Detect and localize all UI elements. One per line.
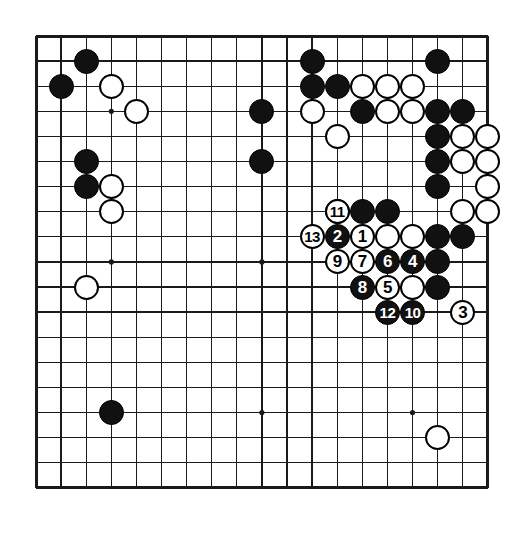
white-stone[interactable] — [350, 74, 375, 99]
move-stone-2[interactable]: 2 — [325, 224, 350, 249]
go-diagram-page: 12345678910111213 — [0, 0, 519, 535]
black-stone[interactable] — [450, 99, 475, 124]
white-stone[interactable] — [475, 199, 500, 224]
white-stone[interactable] — [400, 99, 425, 124]
move-number-label: 13 — [304, 229, 320, 244]
white-stone[interactable] — [400, 74, 425, 99]
move-number-label: 4 — [408, 253, 417, 270]
move-stone-1[interactable]: 1 — [350, 224, 375, 249]
move-number-label: 10 — [405, 305, 421, 320]
black-stone[interactable] — [300, 74, 325, 99]
black-stone[interactable] — [425, 49, 450, 74]
black-stone[interactable] — [74, 149, 99, 174]
move-number-label: 11 — [330, 204, 345, 219]
move-number-label: 1 — [358, 228, 367, 245]
move-stone-11[interactable]: 11 — [325, 199, 350, 224]
white-stone[interactable] — [375, 74, 400, 99]
move-number-label: 6 — [383, 253, 392, 270]
black-stone[interactable] — [350, 99, 375, 124]
black-stone[interactable] — [425, 275, 450, 300]
black-stone[interactable] — [425, 149, 450, 174]
white-stone[interactable] — [99, 174, 124, 199]
white-stone[interactable] — [99, 74, 124, 99]
black-stone[interactable] — [49, 74, 74, 99]
black-stone[interactable] — [74, 174, 99, 199]
move-stone-9[interactable]: 9 — [325, 249, 350, 274]
move-number-label: 7 — [358, 253, 367, 270]
move-stone-10[interactable]: 10 — [400, 300, 425, 325]
white-stone[interactable] — [450, 124, 475, 149]
black-stone[interactable] — [375, 199, 400, 224]
go-board[interactable]: 12345678910111213 — [29, 29, 495, 507]
white-stone[interactable] — [325, 124, 350, 149]
white-stone[interactable] — [475, 149, 500, 174]
white-stone[interactable] — [400, 275, 425, 300]
black-stone[interactable] — [325, 74, 350, 99]
move-stone-12[interactable]: 12 — [375, 300, 400, 325]
move-stone-5[interactable]: 5 — [375, 275, 400, 300]
move-stone-8[interactable]: 8 — [350, 275, 375, 300]
black-stone[interactable] — [99, 400, 124, 425]
move-number-label: 12 — [380, 305, 396, 320]
move-number-label: 5 — [383, 279, 392, 296]
white-stone[interactable] — [375, 99, 400, 124]
move-number-label: 3 — [458, 304, 467, 321]
black-stone[interactable] — [350, 199, 375, 224]
white-stone[interactable] — [300, 99, 325, 124]
black-stone[interactable] — [425, 124, 450, 149]
move-number-label: 9 — [333, 253, 342, 270]
black-stone[interactable] — [74, 49, 99, 74]
black-stone[interactable] — [425, 99, 450, 124]
white-stone[interactable] — [475, 174, 500, 199]
white-stone[interactable] — [475, 124, 500, 149]
move-stone-3[interactable]: 3 — [450, 300, 475, 325]
move-stone-13[interactable]: 13 — [300, 224, 325, 249]
move-number-label: 8 — [358, 279, 367, 296]
white-stone[interactable] — [74, 275, 99, 300]
white-stone[interactable] — [124, 99, 149, 124]
black-stone[interactable] — [300, 49, 325, 74]
move-number-label: 2 — [333, 228, 342, 245]
white-stone[interactable] — [99, 199, 124, 224]
go-board-frame: 12345678910111213 — [29, 29, 495, 507]
